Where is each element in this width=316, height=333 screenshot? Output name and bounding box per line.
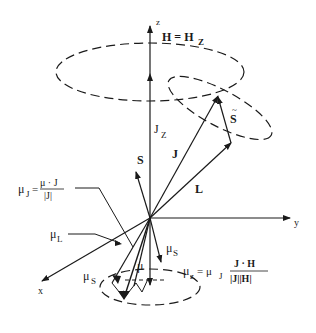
mu-s-upper-label: μ [166, 241, 172, 255]
mu-arrowhead [118, 291, 130, 300]
mu-s-lower-label-sub: S [91, 276, 96, 286]
mu-s-lower-arrowhead [112, 275, 121, 284]
field-label-sub: Z [198, 37, 204, 47]
mu-l-label-sub: L [57, 234, 63, 244]
svg-text:J: J [26, 189, 30, 199]
y-axis-label: y [294, 217, 299, 228]
mu-l-leader-arrowhead [115, 240, 122, 246]
jz-label-sub: Z [161, 130, 167, 140]
j-label: J [172, 147, 178, 161]
l-vector [150, 143, 231, 218]
mu-j-vector [134, 218, 150, 286]
mu-l-leader [68, 234, 120, 243]
s-label: S [137, 153, 144, 167]
mu-s-lower-label: μ [83, 269, 89, 283]
z-axis-label: z [156, 17, 160, 27]
svg-text:= μ: = μ [197, 265, 212, 277]
s-precession-ellipse [160, 65, 279, 151]
s-vector [136, 172, 150, 218]
vector-model-diagram: z H = H Z J Z J S S ~ L y x μ J = μ · J … [0, 0, 316, 333]
svg-text:z: z [190, 271, 194, 281]
mu-s-upper-label-sub: S [173, 248, 178, 258]
svg-text:μ: μ [183, 264, 189, 278]
svg-text:|J||H|: |J||H| [230, 273, 252, 284]
svg-text:=: = [32, 183, 38, 195]
svg-text:|J|: |J| [44, 190, 52, 201]
mu-label: μ [137, 259, 143, 273]
jz-arrowhead [147, 73, 153, 81]
j-vector [150, 96, 218, 218]
l-label: L [195, 182, 203, 196]
svg-text:μ · J: μ · J [40, 177, 58, 188]
mu-vector [124, 218, 150, 298]
mu-j-leader [75, 188, 133, 247]
mu-s-vector [150, 218, 161, 262]
s-tilde-mark: ~ [232, 105, 237, 115]
svg-text:μ: μ [18, 182, 24, 196]
mu-j-formula: μ J = μ · J |J| [18, 177, 64, 201]
mu-l-label: μ [50, 227, 56, 241]
field-label: H = H [162, 30, 194, 44]
mu-l-vector [112, 218, 150, 283]
svg-text:J: J [219, 271, 223, 281]
jz-label: J [154, 122, 159, 136]
x-axis-label: x [38, 285, 43, 296]
svg-text:J · H: J · H [234, 258, 255, 269]
x-axis [42, 218, 150, 281]
